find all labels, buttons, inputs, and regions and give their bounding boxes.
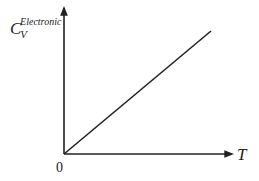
x-axis-label: T	[237, 145, 248, 164]
y-label-sub: V	[20, 28, 28, 40]
y-label-sup: Electronic	[19, 16, 62, 27]
heat-capacity-chart: CVElectronic T 0	[0, 0, 259, 181]
origin-label: 0	[56, 160, 63, 175]
data-line	[64, 31, 211, 154]
y-axis-label: CVElectronic	[10, 16, 62, 40]
